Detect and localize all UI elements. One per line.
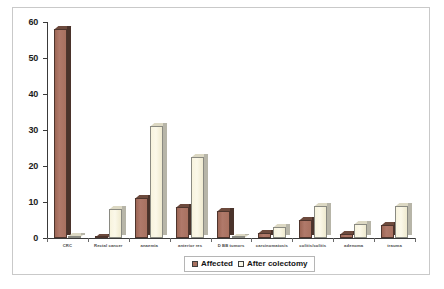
bar-front-face (217, 211, 230, 238)
x-axis-tick (292, 238, 293, 242)
y-axis-tick-label: 20 (16, 161, 38, 171)
y-axis-tick-label: 30 (16, 125, 38, 135)
bar-side-face (122, 206, 126, 235)
bar-front-face (109, 209, 122, 238)
bar-side-face (230, 208, 234, 235)
category-label: anaemia (140, 243, 157, 248)
bar-affected (299, 220, 312, 238)
bar-front-face (150, 126, 163, 238)
bar-front-face (95, 236, 108, 238)
legend-swatch-after (238, 261, 244, 267)
bar-affected (340, 234, 353, 238)
bar-front-face (258, 233, 271, 238)
legend-label-affected: Affected (201, 259, 233, 268)
category-label: colitis/colitis (299, 243, 326, 248)
legend-entry-after: After colectomy (238, 259, 307, 268)
y-axis-tick-label: 10 (16, 197, 38, 207)
bar-after (354, 224, 367, 238)
category-label: anterior res (178, 243, 202, 248)
bar-front-face (273, 227, 286, 238)
bar-front-face (354, 224, 367, 238)
bar-after (191, 157, 204, 238)
x-axis-line (47, 238, 415, 239)
x-axis-tick (333, 238, 334, 242)
bar-front-face (299, 220, 312, 238)
category-label: D BB tumors (218, 243, 245, 248)
bar-front-face (340, 234, 353, 238)
bar-affected (135, 198, 148, 238)
x-axis-tick (88, 238, 89, 242)
bar-front-face (314, 206, 327, 238)
bar-front-face (381, 225, 394, 238)
category-label: CRC (63, 243, 72, 248)
bar-front-face (68, 236, 81, 238)
bar-after (232, 237, 245, 238)
x-axis-tick (47, 238, 48, 242)
legend-entry-affected: Affected (192, 259, 233, 268)
bar-front-face (232, 236, 245, 238)
bar-side-face (81, 233, 85, 235)
bars-layer (47, 22, 415, 238)
bar-side-face (286, 224, 290, 235)
x-axis-tick (211, 238, 212, 242)
bar-front-face (176, 207, 189, 238)
bar-side-face (245, 234, 249, 235)
legend-label-after: After colectomy (247, 259, 307, 268)
y-axis-tick-label: 40 (16, 89, 38, 99)
bar-affected (95, 237, 108, 238)
bar-after (68, 236, 81, 238)
bar-affected (54, 29, 67, 238)
y-axis-tick-label: 0 (16, 233, 38, 243)
bar-after (150, 126, 163, 238)
legend-swatch-affected (192, 261, 198, 267)
bar-after (314, 206, 327, 238)
x-axis-tick (415, 238, 416, 242)
chart-container: 0102030405060 CRCRectal canceranaemiaant… (0, 0, 444, 289)
bar-side-face (67, 26, 71, 235)
x-axis-tick (170, 238, 171, 242)
bar-affected (381, 225, 394, 238)
bar-after (273, 227, 286, 238)
category-label: carcinomatosis (256, 243, 288, 248)
bar-front-face (191, 157, 204, 238)
bar-after (395, 206, 408, 238)
bar-front-face (54, 29, 67, 238)
bar-affected (217, 211, 230, 238)
bar-side-face (367, 221, 371, 235)
bar-side-face (163, 123, 167, 235)
bar-side-face (408, 203, 412, 235)
x-axis-tick (251, 238, 252, 242)
y-axis-tick-label: 60 (16, 17, 38, 27)
chart-legend: Affected After colectomy (184, 256, 315, 272)
category-label: trauma (387, 243, 402, 248)
y-axis-tick-label: 50 (16, 53, 38, 63)
bar-affected (176, 207, 189, 238)
category-label: Rectal cancer (94, 243, 123, 248)
bar-front-face (395, 206, 408, 238)
bar-front-face (135, 198, 148, 238)
x-axis-tick (374, 238, 375, 242)
bar-after (109, 209, 122, 238)
x-axis-tick (129, 238, 130, 242)
bar-side-face (204, 154, 208, 235)
bar-affected (258, 233, 271, 238)
category-label: adenoma (344, 243, 363, 248)
bar-side-face (327, 203, 331, 235)
